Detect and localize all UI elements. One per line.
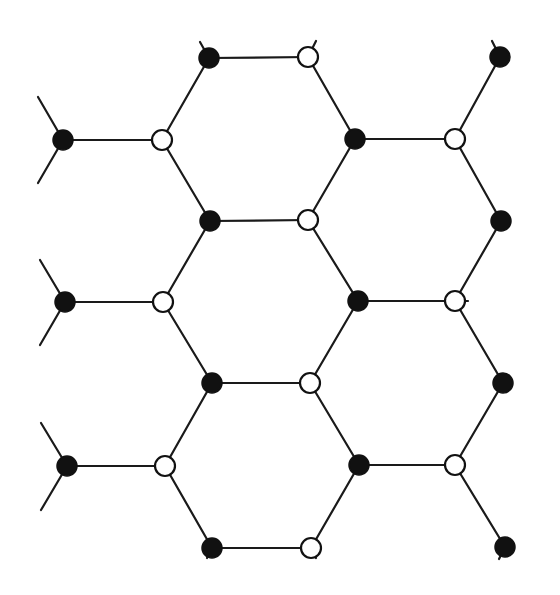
open-site-icon [155, 456, 175, 476]
filled-site-icon [493, 373, 513, 393]
filled-site-icon [495, 537, 515, 557]
bond-line [209, 57, 308, 58]
open-site-icon [301, 538, 321, 558]
bond-line [310, 383, 359, 465]
bond-line [210, 220, 308, 221]
bond-line [455, 139, 501, 221]
bond-line [165, 466, 212, 548]
open-site-icon [153, 292, 173, 312]
bond-line [163, 221, 210, 302]
open-site-icon [445, 455, 465, 475]
filled-site-icon [53, 130, 73, 150]
open-site-icon [300, 373, 320, 393]
filled-site-icon [490, 47, 510, 67]
open-site-icon [445, 129, 465, 149]
filled-site-icon [55, 292, 75, 312]
filled-site-icon [348, 291, 368, 311]
filled-site-icon [200, 211, 220, 231]
open-site-icon [152, 130, 172, 150]
bond-line [162, 58, 209, 140]
bond-line [455, 57, 500, 139]
bond-line [455, 383, 503, 465]
bond-line [308, 57, 355, 139]
honeycomb-lattice-diagram [0, 0, 560, 595]
filled-site-icon [57, 456, 77, 476]
open-site-icon [298, 47, 318, 67]
filled-site-icon [199, 48, 219, 68]
bond-line [165, 383, 212, 466]
bond-line [311, 465, 359, 548]
bond-line [163, 302, 212, 383]
bonds-layer [63, 57, 505, 548]
filled-site-icon [202, 373, 222, 393]
bond-line [308, 220, 358, 301]
bond-line [310, 301, 358, 383]
open-site-icon [298, 210, 318, 230]
lattice-canvas [0, 0, 560, 595]
bond-line [308, 139, 355, 220]
filled-site-icon [349, 455, 369, 475]
filled-site-icon [345, 129, 365, 149]
filled-site-icon [491, 211, 511, 231]
bond-line [455, 221, 501, 301]
filled-site-icon [202, 538, 222, 558]
open-site-icon [445, 291, 465, 311]
bond-line [455, 301, 503, 383]
bond-line [162, 140, 210, 221]
bond-line [455, 465, 505, 547]
